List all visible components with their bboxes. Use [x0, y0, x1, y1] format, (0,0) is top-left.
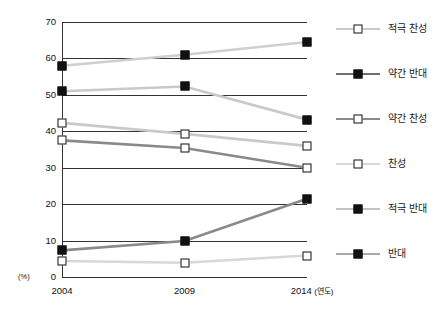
legend-item-label: 반대 — [388, 248, 406, 260]
legend-item[interactable]: 반대 — [336, 247, 406, 261]
legend-item[interactable]: 적극 찬성 — [336, 22, 427, 36]
legend-swatch — [336, 112, 380, 126]
chart-root: 010203040506070(%) 200420092014 (연도) 적극 … — [0, 0, 441, 318]
data-point-marker — [58, 87, 67, 96]
plot-area: 010203040506070(%) 200420092014 (연도) — [0, 0, 332, 318]
legend-item-label: 찬성 — [388, 158, 406, 170]
open-square-icon — [354, 115, 363, 124]
data-point-marker — [58, 61, 67, 70]
data-point-marker — [58, 246, 67, 255]
data-point-marker — [58, 118, 67, 127]
data-point-marker — [180, 258, 189, 267]
legend-swatch — [336, 67, 380, 81]
filled-square-icon — [354, 70, 363, 79]
data-point-marker — [180, 50, 189, 59]
legend-swatch — [336, 22, 380, 36]
legend-item[interactable]: 약간 반대 — [336, 67, 427, 81]
legend-item-label: 적극 찬성 — [388, 23, 427, 35]
legend-item[interactable]: 약간 찬성 — [336, 112, 427, 126]
legend-swatch — [336, 247, 380, 261]
legend-item-label: 약간 반대 — [388, 68, 427, 80]
filled-square-icon — [354, 250, 363, 259]
data-point-marker — [180, 236, 189, 245]
data-point-marker — [58, 256, 67, 265]
data-point-marker — [303, 141, 312, 150]
data-point-marker — [303, 38, 312, 47]
data-point-marker — [180, 144, 189, 153]
data-point-marker — [303, 115, 312, 124]
legend-item-label: 약간 찬성 — [388, 113, 427, 125]
legend-swatch — [336, 157, 380, 171]
open-square-icon — [354, 25, 363, 34]
legend-item[interactable]: 찬성 — [336, 157, 406, 171]
legend-item[interactable]: 적극 반대 — [336, 202, 427, 216]
data-point-marker — [180, 82, 189, 91]
data-point-marker — [303, 163, 312, 172]
data-point-marker — [58, 136, 67, 145]
open-square-icon — [354, 160, 363, 169]
filled-square-icon — [354, 205, 363, 214]
data-point-marker — [303, 251, 312, 260]
legend-swatch — [336, 202, 380, 216]
data-point-marker — [303, 194, 312, 203]
legend-item-label: 적극 반대 — [388, 203, 427, 215]
chart-legend: 적극 찬성약간 반대약간 찬성찬성적극 반대반대 — [336, 0, 441, 318]
data-point-marker — [180, 129, 189, 138]
